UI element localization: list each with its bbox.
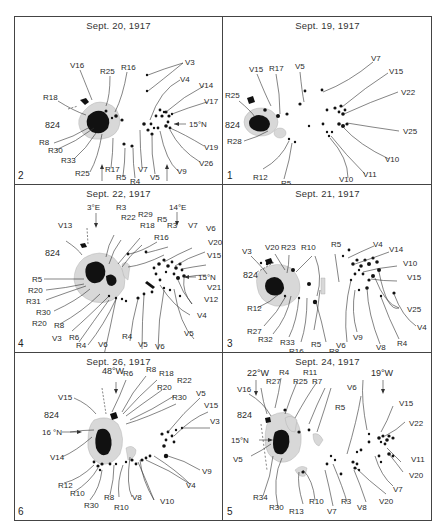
svg-text:V7: V7 <box>138 165 148 174</box>
svg-text:R4: R4 <box>76 341 87 350</box>
svg-text:R30: R30 <box>172 393 187 402</box>
svg-text:824: 824 <box>44 410 59 420</box>
svg-text:V11: V11 <box>363 170 377 179</box>
svg-text:V15: V15 <box>207 251 222 260</box>
svg-text:R25: R25 <box>100 67 115 76</box>
svg-text:R12: R12 <box>247 304 262 313</box>
panel-sept-19: Sept. 19, 1917 V15R17 V5R25 824R28 R12R5 <box>223 16 432 184</box>
svg-text:R22: R22 <box>177 376 192 385</box>
svg-text:V7: V7 <box>188 221 198 230</box>
svg-text:R5: R5 <box>331 240 342 249</box>
svg-text:V10: V10 <box>339 175 354 184</box>
svg-text:R6: R6 <box>123 369 134 378</box>
svg-text:R10: R10 <box>70 489 85 498</box>
svg-text:R10: R10 <box>301 243 316 252</box>
svg-text:R32: R32 <box>258 335 273 344</box>
svg-text:V20: V20 <box>379 497 394 506</box>
svg-text:R8: R8 <box>146 365 157 374</box>
sunspot-drawing: 48°WR6 R8R18 R22R20 R30 V15824 16 °N V14… <box>14 352 223 520</box>
svg-text:R25: R25 <box>75 169 90 178</box>
panel-number: 3 <box>227 338 233 349</box>
svg-text:14°E: 14°E <box>169 203 186 212</box>
svg-text:V4: V4 <box>417 323 427 332</box>
svg-text:824: 824 <box>237 410 252 420</box>
panel-number: 2 <box>18 170 24 181</box>
svg-text:V8: V8 <box>132 493 142 502</box>
svg-text:V25: V25 <box>407 305 422 314</box>
svg-text:V26: V26 <box>199 159 214 168</box>
panel-sept-21: Sept. 21, 1917 <box>223 184 432 352</box>
svg-text:R23: R23 <box>281 243 296 252</box>
svg-text:V16: V16 <box>70 61 85 70</box>
svg-text:V15: V15 <box>249 65 264 74</box>
svg-text:R17: R17 <box>269 64 284 73</box>
svg-text:V12: V12 <box>204 295 219 304</box>
svg-text:R11: R11 <box>303 368 318 377</box>
svg-text:R12: R12 <box>253 173 268 182</box>
panel-number: 6 <box>18 506 24 517</box>
svg-text:V14: V14 <box>199 81 214 90</box>
svg-text:R3: R3 <box>116 203 127 212</box>
svg-text:R10: R10 <box>309 497 324 506</box>
svg-text:R31: R31 <box>26 297 41 306</box>
svg-text:V5: V5 <box>196 389 206 398</box>
svg-text:16 °N: 16 °N <box>42 428 62 437</box>
svg-text:R4: R4 <box>130 177 141 184</box>
svg-text:R30: R30 <box>269 503 284 512</box>
svg-text:R4: R4 <box>279 368 290 377</box>
svg-text:15°N: 15°N <box>189 120 207 129</box>
svg-text:R33: R33 <box>61 156 76 165</box>
svg-text:V20: V20 <box>265 243 280 252</box>
svg-text:824: 824 <box>45 248 60 258</box>
sunspot-drawing: V3V20 R10R23 R5 824 V4V14 V10V15 V25 V4 … <box>223 184 432 352</box>
sunspot-drawing: V15R17 V5R25 824R28 R12R5 V7V15 V22V25 V… <box>223 16 432 184</box>
svg-text:R18: R18 <box>140 221 155 230</box>
svg-text:V5: V5 <box>233 455 243 464</box>
svg-text:R4: R4 <box>122 332 133 341</box>
svg-text:R5: R5 <box>116 173 127 182</box>
svg-text:R20: R20 <box>32 319 47 328</box>
svg-text:V4: V4 <box>373 240 383 249</box>
svg-text:R34: R34 <box>253 493 268 502</box>
svg-text:V20: V20 <box>409 471 424 480</box>
svg-text:R22: R22 <box>121 213 136 222</box>
svg-text:V15: V15 <box>399 399 414 408</box>
panel-sept-24: Sept. 24, 1917 <box>223 352 432 520</box>
svg-text:V8: V8 <box>376 343 386 352</box>
panel-number: 1 <box>227 170 233 181</box>
svg-text:V5: V5 <box>184 329 194 338</box>
svg-text:824: 824 <box>225 120 240 130</box>
svg-text:V6: V6 <box>347 383 357 392</box>
svg-text:V7: V7 <box>371 54 381 63</box>
panel-sept-22: Sept. 22, 1917 <box>14 184 223 352</box>
svg-text:R18: R18 <box>159 369 174 378</box>
svg-text:V9: V9 <box>353 333 363 342</box>
svg-text:V3: V3 <box>210 417 220 426</box>
svg-text:R27: R27 <box>266 377 281 386</box>
svg-text:V3: V3 <box>185 58 195 67</box>
svg-text:V25: V25 <box>403 127 418 136</box>
svg-text:R30: R30 <box>84 501 99 510</box>
svg-text:V6: V6 <box>98 340 108 349</box>
svg-text:V17: V17 <box>204 97 219 106</box>
svg-text:V8: V8 <box>357 503 367 512</box>
svg-text:V4: V4 <box>180 75 190 84</box>
svg-text:V5: V5 <box>150 173 160 182</box>
svg-text:15°N: 15°N <box>231 436 249 445</box>
svg-text:V7: V7 <box>393 485 403 494</box>
svg-text:R5: R5 <box>311 340 322 349</box>
svg-text:R28: R28 <box>227 137 242 146</box>
svg-text:R33: R33 <box>280 338 295 347</box>
svg-text:V14: V14 <box>389 245 404 254</box>
svg-text:V22: V22 <box>401 88 416 97</box>
svg-text:R7: R7 <box>312 377 323 386</box>
svg-text:R30: R30 <box>48 146 63 155</box>
svg-text:V21: V21 <box>207 283 222 292</box>
svg-text:V14: V14 <box>50 453 65 462</box>
svg-text:R30: R30 <box>36 308 51 317</box>
svg-text:V6: V6 <box>336 341 346 350</box>
svg-text:R16: R16 <box>121 63 136 72</box>
svg-text:V13: V13 <box>58 221 73 230</box>
svg-text:R8: R8 <box>54 321 65 330</box>
svg-text:V3: V3 <box>242 247 252 256</box>
